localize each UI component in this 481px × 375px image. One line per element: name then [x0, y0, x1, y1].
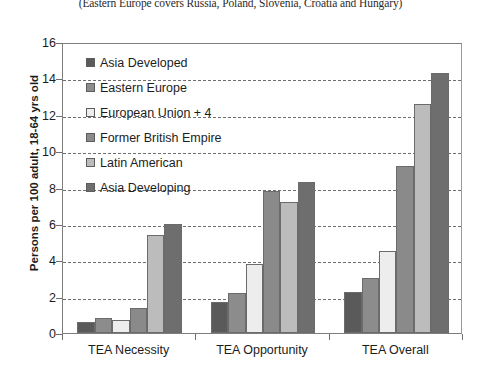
x-tick-mark-2 — [329, 334, 330, 340]
bar — [344, 292, 361, 333]
bar — [211, 302, 228, 333]
bar — [228, 293, 245, 333]
legend-item-label: Latin American — [100, 156, 183, 170]
y-tick-label-10: 10 — [16, 145, 56, 159]
legend-swatch-icon — [86, 158, 95, 167]
legend-item-label: Eastern Europe — [100, 81, 187, 95]
y-tick-label-12: 12 — [16, 109, 56, 123]
legend-item-label: European Union + 4 — [100, 106, 212, 120]
legend-item: European Union + 4 — [86, 100, 261, 125]
x-tick-label-2: TEA Opportunity — [192, 343, 332, 357]
x-tick-mark-0 — [62, 334, 63, 340]
bar — [280, 202, 297, 333]
bar — [130, 308, 147, 333]
bar — [263, 191, 280, 333]
bar — [95, 318, 112, 333]
y-tick-label-8: 8 — [16, 182, 56, 196]
legend-swatch-icon — [86, 58, 95, 67]
y-tick-label-2: 2 — [16, 291, 56, 305]
bar — [164, 224, 181, 333]
y-tick-label-14: 14 — [16, 72, 56, 86]
chart-legend: Asia DevelopedEastern EuropeEuropean Uni… — [86, 50, 261, 200]
legend-swatch-icon — [86, 183, 95, 192]
bar — [379, 251, 396, 333]
x-tick-label-3: TEA Overall — [325, 343, 465, 357]
y-tick-label-16: 16 — [16, 36, 56, 50]
y-tick-label-4: 4 — [16, 254, 56, 268]
bar — [396, 166, 413, 333]
bar — [246, 264, 263, 333]
legend-swatch-icon — [86, 133, 95, 142]
legend-item: Former British Empire — [86, 125, 261, 150]
x-tick-mark-1 — [195, 334, 196, 340]
bar — [298, 182, 315, 333]
legend-swatch-icon — [86, 83, 95, 92]
bar — [362, 278, 379, 333]
legend-swatch-icon — [86, 108, 95, 117]
x-tick-label-1: TEA Necessity — [59, 343, 199, 357]
legend-item: Asia Developing — [86, 175, 261, 200]
chart-caption: (Eastern Europe covers Russia, Poland, S… — [0, 0, 481, 9]
y-tick-label-0: 0 — [16, 327, 56, 341]
legend-item-label: Former British Empire — [100, 131, 222, 145]
bar — [147, 235, 164, 333]
y-tick-label-6: 6 — [16, 218, 56, 232]
legend-item-label: Asia Developed — [100, 56, 188, 70]
bar — [414, 104, 431, 333]
bar-chart: (Eastern Europe covers Russia, Poland, S… — [0, 0, 481, 375]
bar — [431, 73, 448, 333]
x-tick-mark-3 — [462, 334, 463, 340]
legend-item: Asia Developed — [86, 50, 261, 75]
legend-item: Eastern Europe — [86, 75, 261, 100]
bar — [77, 322, 94, 333]
legend-item: Latin American — [86, 150, 261, 175]
legend-item-label: Asia Developing — [100, 181, 190, 195]
bar — [112, 320, 129, 333]
